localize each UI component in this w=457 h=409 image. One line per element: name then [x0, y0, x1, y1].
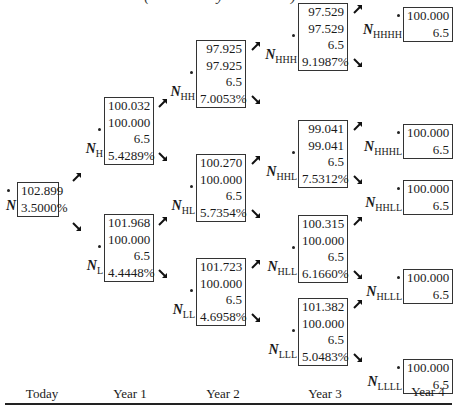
node-box-nhhh: 97.529 97.529 6.5 9.1987%	[298, 3, 348, 71]
node-box-nhl: 100.270 100.000 6.5 5.7354%	[196, 154, 246, 222]
node-value: 100.000	[407, 181, 449, 198]
node-dot	[7, 189, 10, 192]
node-value: 6.5	[302, 332, 344, 349]
node-dot	[98, 245, 101, 248]
node-dot	[397, 276, 400, 279]
node-value: 101.382	[302, 299, 344, 316]
node-value: 102.899	[21, 183, 55, 200]
node-value: 6.5	[407, 25, 449, 42]
node-box-nhhl: 99.041 99.041 6.5 7.5312%	[298, 120, 348, 188]
arrow-down-right-icon	[158, 269, 168, 279]
node-value: 101.723	[200, 259, 242, 276]
node-label-nl: NL	[80, 258, 103, 276]
node-value: 99.041	[302, 138, 344, 155]
arrow-down-right-icon	[251, 209, 261, 219]
node-value: 6.5	[302, 37, 344, 54]
node-value: 100.315	[302, 216, 344, 233]
node-value: 4.6958%	[200, 309, 242, 326]
arrow-up-right-icon	[251, 259, 261, 269]
axis-label-year-4: Year 4	[393, 384, 457, 400]
node-dot	[292, 329, 295, 332]
arrow-down-right-icon	[353, 58, 363, 68]
node-value: 4.4448%	[108, 265, 150, 282]
node-value: 7.5312%	[302, 171, 344, 188]
node-value: 5.4289%	[108, 148, 150, 165]
node-value: 9.1987%	[302, 54, 344, 71]
node-value: 6.5	[302, 154, 344, 171]
node-label-nhh: NHH	[165, 84, 195, 102]
node-label-nh: NH	[80, 141, 103, 159]
axis-label-year-2: Year 2	[188, 386, 258, 402]
node-value: 99.041	[302, 121, 344, 138]
node-value: 100.000	[407, 360, 449, 377]
node-value: 100.032	[108, 98, 150, 115]
node-value: 100.000	[302, 233, 344, 250]
node-label-nhhh: NHHH	[258, 47, 297, 65]
node-dot	[397, 14, 400, 17]
node-value: 100.000	[200, 172, 242, 189]
node-value: 6.5	[200, 74, 242, 91]
node-value: 6.5	[200, 188, 242, 205]
timeline-baseline	[5, 403, 452, 405]
node-dot	[397, 187, 400, 190]
node-box-n: 102.899 3.5000%	[17, 182, 59, 217]
diagram-title-cut-off: ( y )	[120, 0, 320, 4]
node-value: 100.000	[407, 270, 449, 287]
node-box-nh: 100.032 100.000 6.5 5.4289%	[104, 97, 154, 165]
node-box-nhhhl: 100.000 6.5	[403, 124, 453, 159]
arrow-up-right-icon	[353, 216, 363, 226]
node-box-nhhhh: 100.000 6.5	[403, 7, 453, 42]
node-value: 6.5	[407, 198, 449, 215]
arrow-down-right-icon	[251, 313, 261, 323]
node-box-nl: 101.968 100.000 6.5 4.4448%	[104, 214, 154, 282]
arrow-up-right-icon	[353, 299, 363, 309]
node-value: 97.529	[302, 21, 344, 38]
node-value: 5.0483%	[302, 349, 344, 366]
axis-label-today: Today	[7, 386, 77, 402]
node-box-nhhll: 100.000 6.5	[403, 180, 453, 215]
node-label-nhhhh: NHHHH	[354, 22, 402, 40]
arrow-up-right-icon	[251, 41, 261, 51]
node-value: 97.925	[200, 41, 242, 58]
node-value: 100.270	[200, 155, 242, 172]
node-value: 6.5	[407, 142, 449, 159]
node-value: 100.000	[200, 276, 242, 293]
axis-label-year-1: Year 1	[95, 386, 165, 402]
arrow-down-right-icon	[353, 270, 363, 280]
node-dot	[190, 71, 193, 74]
node-value: 3.5000%	[21, 200, 55, 217]
node-label-nhhll: NHHLL	[354, 195, 402, 213]
node-label-nhhhl: NHHHL	[354, 139, 402, 157]
arrow-down-right-icon	[353, 353, 363, 363]
node-value: 6.5	[407, 287, 449, 304]
node-value: 100.000	[108, 232, 150, 249]
node-dot	[98, 128, 101, 131]
node-value: 7.0053%	[200, 91, 242, 108]
node-label-nll: NLL	[165, 302, 195, 320]
arrow-down-right-icon	[158, 152, 168, 162]
node-label-nlll: NLLL	[258, 342, 297, 360]
node-label-nhl: NHL	[165, 198, 195, 216]
node-label-n: N	[4, 198, 16, 216]
node-value: 6.5	[302, 249, 344, 266]
node-value: 100.000	[407, 125, 449, 142]
node-label-nhhl: NHHL	[258, 164, 297, 182]
arrow-down-right-icon	[72, 222, 82, 232]
node-dot	[292, 246, 295, 249]
arrow-up-right-icon	[72, 172, 82, 182]
node-value: 6.5	[108, 131, 150, 148]
node-value: 5.7354%	[200, 205, 242, 222]
node-box-nhlll: 100.000 6.5	[403, 269, 453, 304]
node-value: 6.5	[108, 248, 150, 265]
arrow-up-right-icon	[353, 121, 363, 131]
node-dot	[397, 366, 400, 369]
node-value: 101.968	[108, 215, 150, 232]
node-value: 97.925	[200, 58, 242, 75]
node-dot	[292, 151, 295, 154]
node-label-nhll: NHLL	[258, 259, 297, 277]
arrow-up-right-icon	[158, 216, 168, 226]
node-dot	[190, 289, 193, 292]
arrow-down-right-icon	[353, 175, 363, 185]
node-value: 6.5	[200, 292, 242, 309]
node-box-nll: 101.723 100.000 6.5 4.6958%	[196, 258, 246, 326]
